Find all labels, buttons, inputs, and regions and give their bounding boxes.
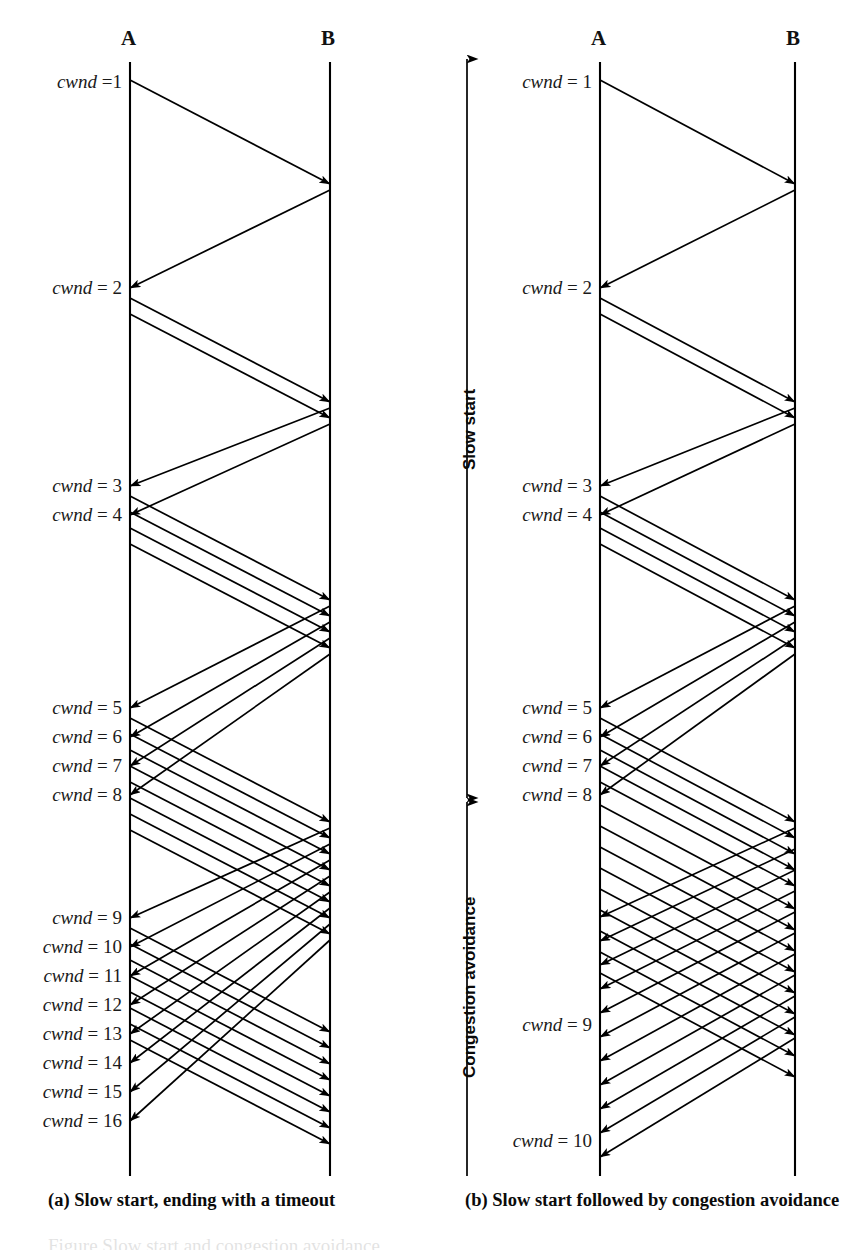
cwnd-value: = 9 [92,907,122,928]
data-segment-12 [130,782,330,886]
data-segment-20 [600,952,795,1056]
data-segment-2 [600,298,795,402]
data-segment-3 [600,314,795,418]
ack-segment-1 [130,190,330,288]
cwnd-label-6: cwnd = 6 [0,727,122,746]
cwnd-value: = 11 [83,965,122,986]
cwnd-label-10: cwnd = 10 [0,937,122,956]
data-segment-13 [600,805,795,909]
data-segment-11 [600,766,795,870]
cwnd-value: = 3 [562,475,592,496]
cwnd-label-3: cwnd = 3 [0,476,122,495]
data-segment-3 [130,314,330,418]
data-segment-17 [600,889,795,993]
cwnd-value: = 6 [92,726,122,747]
ack-segment-18 [600,1038,795,1157]
data-segment-2 [130,298,330,402]
cwnd-variable-name: cwnd [513,1130,553,1151]
data-segment-19 [600,931,795,1035]
cwnd-label-15: cwnd = 15 [0,1082,122,1101]
cwnd-variable-name: cwnd [52,277,92,298]
data-segment-21 [600,973,795,1077]
cwnd-label-9: cwnd = 9 [0,908,122,927]
cwnd-value: = 4 [92,504,122,525]
data-segment-1 [130,80,330,184]
data-segment-7 [600,544,795,648]
ack-segment-17 [600,1017,795,1133]
cwnd-value: = 5 [562,697,592,718]
cwnd-label-1: cwnd = 1 [442,72,592,91]
data-segment-13 [130,798,330,902]
cwnd-value: = 3 [92,475,122,496]
cwnd-variable-name: cwnd [522,475,562,496]
ack-segment-2 [600,408,795,486]
cwnd-value: = 7 [92,755,122,776]
ack-segment-3 [600,424,795,515]
panel-caption-panel-b: (b) Slow start followed by congestion av… [465,1191,839,1210]
cwnd-variable-name: cwnd [52,784,92,805]
ack-segment-14 [600,954,795,1061]
cwnd-value: = 1 [562,71,592,92]
cwnd-label-14: cwnd = 14 [0,1053,122,1072]
cwnd-label-11: cwnd = 11 [0,966,122,985]
data-segment-11 [130,766,330,870]
cwnd-variable-name: cwnd [522,277,562,298]
cwnd-variable-name: cwnd [522,71,562,92]
data-segment-10 [600,750,795,854]
ack-segment-16 [600,996,795,1109]
data-segment-8 [600,718,795,822]
host-label-b: B [786,28,800,49]
cwnd-variable-name: cwnd [522,1014,562,1035]
cwnd-variable-name: cwnd [52,475,92,496]
cwnd-label-12: cwnd = 12 [0,995,122,1014]
cwnd-label-2: cwnd = 2 [442,278,592,297]
cwnd-variable-name: cwnd [43,965,83,986]
host-label-a: A [121,28,136,49]
data-segment-23 [130,1040,330,1144]
cwnd-variable-name: cwnd [522,726,562,747]
data-segment-5 [600,512,795,616]
ack-segment-11 [600,891,795,989]
cwnd-value: = 13 [83,1023,122,1044]
data-segment-9 [130,734,330,838]
data-segment-17 [130,944,330,1048]
ack-segment-13 [600,933,795,1037]
cwnd-value: = 8 [562,784,592,805]
cwnd-value: = 9 [562,1014,592,1035]
cwnd-value: = 12 [83,994,122,1015]
data-segment-7 [130,544,330,648]
phase-label-congestion-avoidance: Congestion avoidance [461,897,478,1078]
cwnd-label-10: cwnd = 10 [442,1131,592,1150]
cwnd-label-5: cwnd = 5 [442,698,592,717]
cwnd-value: = 16 [83,1110,122,1131]
cwnd-variable-name: cwnd [52,726,92,747]
data-segment-21 [130,1008,330,1112]
cwnd-value: = 7 [562,755,592,776]
cwnd-value: = 8 [92,784,122,805]
host-label-a: A [591,28,606,49]
data-segment-9 [600,734,795,838]
cwnd-value: = 6 [562,726,592,747]
cwnd-variable-name: cwnd [57,71,97,92]
cwnd-variable-name: cwnd [522,784,562,805]
data-segment-1 [600,80,795,184]
cwnd-variable-name: cwnd [52,907,92,928]
data-segment-6 [600,528,795,632]
cwnd-label-13: cwnd = 13 [0,1024,122,1043]
ack-segment-15 [600,975,795,1085]
figure-root: a congestion window of one segment Figur… [0,0,851,1252]
data-segment-4 [130,496,330,600]
data-segment-16 [130,928,330,1032]
cwnd-value: = 15 [83,1081,122,1102]
cwnd-label-1: cwnd =1 [0,72,122,91]
cwnd-value: = 2 [92,277,122,298]
ack-segment-5 [600,622,795,737]
cwnd-value: = 4 [562,504,592,525]
cwnd-variable-name: cwnd [522,755,562,776]
data-segment-14 [130,814,330,918]
cwnd-label-8: cwnd = 8 [0,785,122,804]
ack-segment-3 [130,424,330,515]
data-segment-12 [600,782,795,886]
cwnd-label-8: cwnd = 8 [442,785,592,804]
ack-segment-1 [600,190,795,288]
